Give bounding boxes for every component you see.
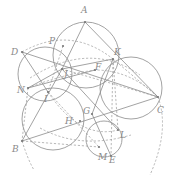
point-J bbox=[61, 68, 63, 70]
segment-NF bbox=[28, 70, 95, 88]
label-G: G bbox=[83, 106, 90, 116]
point-L bbox=[117, 129, 119, 131]
circle-APK bbox=[53, 22, 119, 88]
dashed-segment-JC bbox=[62, 69, 158, 97]
point-A bbox=[84, 21, 86, 23]
point-H bbox=[79, 120, 81, 122]
circles-layer bbox=[18, 22, 162, 157]
label-B: B bbox=[11, 144, 19, 154]
points-layer bbox=[21, 21, 159, 157]
label-P: P bbox=[48, 36, 56, 46]
label-F: F bbox=[94, 62, 102, 72]
label-A: A bbox=[80, 5, 88, 15]
segment-GE bbox=[92, 114, 111, 156]
geometry-diagram: APDKJFNICGHLBME bbox=[0, 0, 180, 181]
segments-layer bbox=[22, 22, 158, 156]
dashed-segment-PI bbox=[48, 46, 63, 92]
label-M: M bbox=[97, 152, 108, 162]
label-H: H bbox=[64, 116, 73, 126]
point-M bbox=[98, 146, 100, 148]
label-K: K bbox=[113, 47, 122, 57]
dashed-segment-IM bbox=[48, 92, 99, 147]
point-B bbox=[21, 140, 23, 142]
label-E: E bbox=[108, 155, 116, 165]
dashed-curves-layer bbox=[22, 40, 163, 175]
point-P bbox=[62, 45, 64, 47]
point-D bbox=[21, 51, 23, 53]
circle-BIH bbox=[22, 88, 84, 150]
point-G bbox=[91, 113, 93, 115]
point-K bbox=[112, 58, 114, 60]
label-N: N bbox=[16, 85, 26, 95]
label-I: I bbox=[43, 94, 48, 104]
label-C: C bbox=[157, 105, 164, 115]
dashed-segment-BM bbox=[22, 141, 99, 147]
label-L: L bbox=[119, 130, 126, 140]
point-C bbox=[157, 96, 159, 98]
label-D: D bbox=[10, 47, 18, 57]
dashed-arc-left-bottom bbox=[22, 141, 34, 170]
segment-AC bbox=[85, 22, 158, 97]
point-I bbox=[47, 91, 49, 93]
point-N bbox=[27, 87, 29, 89]
dashed-segment-KE bbox=[111, 59, 113, 156]
